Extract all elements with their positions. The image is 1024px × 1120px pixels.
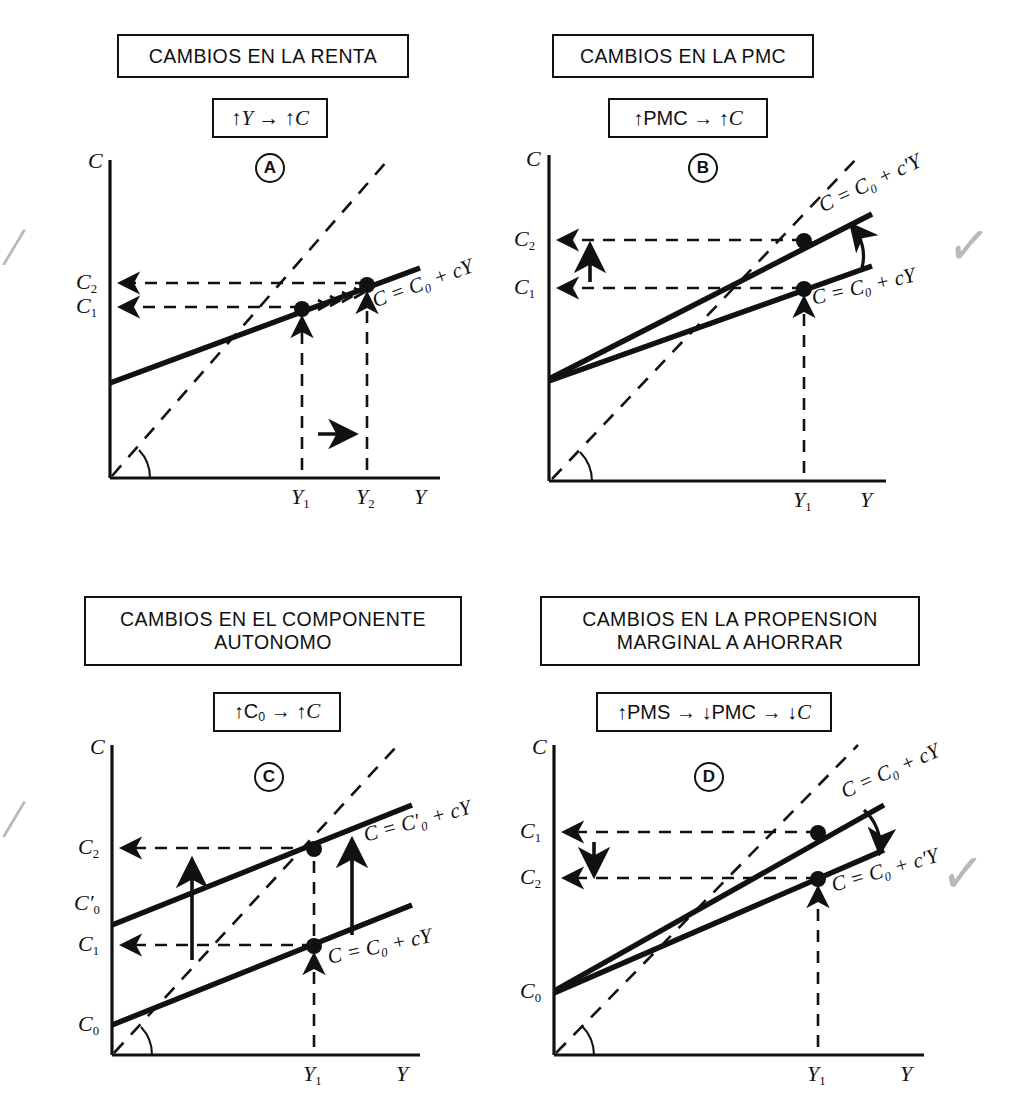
panel-a-y-axis-label: C bbox=[88, 150, 103, 172]
panel-d-x-tick-y1: Y1 bbox=[807, 1063, 826, 1087]
panel-c-y-tick-c0-prime: C′0 bbox=[74, 892, 100, 916]
panel-c-point-c2 bbox=[306, 841, 322, 857]
panel-a-x-axis-label: Y bbox=[414, 486, 426, 508]
panel-b-x-axis-label: Y bbox=[860, 489, 872, 511]
panel-c-consumption-line-original bbox=[112, 905, 412, 1025]
panel-b: CAMBIOS EN LA PMC ↑PMC → ↑C B bbox=[512, 0, 1024, 560]
panel-c-angle-arc bbox=[141, 1027, 152, 1055]
panel-c-plot bbox=[0, 560, 512, 1120]
panel-d-x-axis-label: Y bbox=[900, 1063, 912, 1085]
panel-a-angle-arc bbox=[139, 450, 150, 478]
panel-d-plot bbox=[512, 560, 1024, 1120]
panel-a-45-degree-line bbox=[112, 160, 388, 476]
panel-b-y-tick-c2: C2 bbox=[514, 228, 535, 252]
panel-c: CAMBIOS EN EL COMPONENTE AUTONOMO ↑C0 → … bbox=[0, 560, 512, 1120]
panel-d-y-axis-label: C bbox=[532, 736, 547, 758]
panel-b-angle-arc bbox=[580, 452, 592, 481]
panel-b-point-c2 bbox=[796, 233, 812, 249]
panel-c-x-tick-y1: Y1 bbox=[303, 1063, 322, 1087]
panel-a-point-1 bbox=[294, 301, 310, 317]
panel-b-plot bbox=[512, 0, 1024, 560]
panel-d-45-degree-line bbox=[556, 745, 858, 1053]
panel-d-point-c1 bbox=[810, 825, 826, 841]
panel-b-y-tick-c1: C1 bbox=[514, 276, 535, 300]
panel-b-x-tick-y1: Y1 bbox=[793, 489, 812, 513]
panel-d-point-c2 bbox=[810, 871, 826, 887]
panel-c-y-axis-label: C bbox=[90, 736, 105, 758]
panel-c-point-c1 bbox=[306, 938, 322, 954]
panel-b-pivot-arrow bbox=[853, 227, 864, 268]
panel-b-y-axis-label: C bbox=[526, 148, 541, 170]
panel-c-y-tick-c1: C1 bbox=[78, 933, 99, 957]
panel-d: CAMBIOS EN LA PROPENSION MARGINAL A AHOR… bbox=[512, 560, 1024, 1120]
panel-d-angle-arc bbox=[582, 1026, 594, 1055]
panel-d-y-tick-c0: C0 bbox=[520, 980, 541, 1004]
panel-a-y-tick-c2: C2 bbox=[76, 271, 97, 295]
panel-a-x-tick-y2: Y2 bbox=[356, 486, 375, 510]
panel-d-y-tick-c2: C2 bbox=[520, 866, 541, 890]
panel-a-x-tick-y1: Y1 bbox=[291, 486, 310, 510]
panel-d-y-tick-c1: C1 bbox=[520, 820, 541, 844]
panel-c-y-tick-c2: C2 bbox=[78, 836, 99, 860]
panel-c-y-tick-c0: C0 bbox=[78, 1013, 99, 1037]
panel-c-x-axis-label: Y bbox=[396, 1063, 408, 1085]
panel-a-y-tick-c1: C1 bbox=[76, 295, 97, 319]
figure-root: / ✓ / ✓ CAMBIOS EN LA RENTA ↑Y → ↑C A bbox=[0, 0, 1024, 1120]
panel-a: CAMBIOS EN LA RENTA ↑Y → ↑C A bbox=[0, 0, 512, 560]
panel-b-45-degree-line bbox=[552, 155, 860, 479]
